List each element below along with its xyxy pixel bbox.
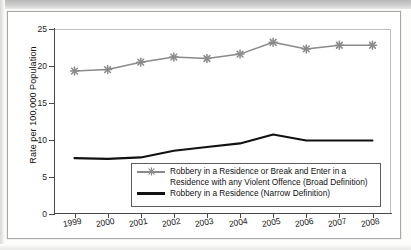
legend-label-narrow-line1: Robbery in a Residence (Narrow Definitio… [170,188,330,199]
y-tick-label-5: 5 [22,173,47,182]
scan-top-band [0,0,411,9]
y-tick-20 [49,66,55,67]
asterisk-line-icon [136,166,166,177]
y-tick-label-0: 0 [22,210,47,219]
figure-page: Rate per 100,000 Population 0510152025 1… [0,0,411,250]
x-axis-line [54,213,392,214]
y-tick-15 [49,103,55,104]
legend-label-broad: Robbery in a Residence or Break and Ente… [170,166,368,187]
y-tick-0 [49,214,55,215]
scan-left-edge [0,0,5,250]
legend-label-broad-line1: Robbery in a Residence or Break and Ente… [170,166,368,177]
scan-bottom-edge [0,244,411,250]
thick-line-icon [136,188,166,199]
y-tick-label-15: 15 [22,99,47,108]
y-tick-label-10: 10 [22,136,47,145]
legend-label-broad-line2: Residence with any Violent Offence (Broa… [170,177,368,188]
legend-entry-narrow: Robbery in a Residence (Narrow Definitio… [132,188,380,199]
legend-label-narrow: Robbery in a Residence (Narrow Definitio… [170,188,330,199]
y-tick-5 [49,177,55,178]
y-tick-label-25: 25 [22,25,47,34]
y-tick-label-20: 20 [22,62,47,71]
y-tick-25 [49,29,55,30]
y-tick-10 [49,140,55,141]
chart-legend: Robbery in a Residence or Break and Ente… [131,163,381,207]
y-axis-line [54,28,55,214]
legend-entry-broad: Robbery in a Residence or Break and Ente… [132,166,380,187]
